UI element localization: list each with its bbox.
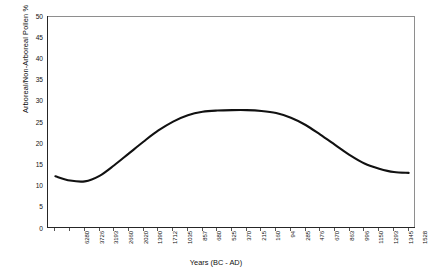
y-axis-tick-label: 25: [21, 119, 43, 126]
x-axis-tick-label: 160: [274, 231, 283, 255]
pollen-line-chart: Arboreal/Non-Arboreal Pollen % 504540353…: [0, 0, 432, 276]
x-axis-tick-label: 2660: [127, 231, 136, 255]
plot-area: [47, 16, 415, 228]
x-axis-tick-label: 1345: [407, 231, 416, 255]
x-axis-tick-label: 370: [245, 231, 254, 255]
y-axis-tick-label: 50: [21, 13, 43, 20]
x-axis-tick-label: 996: [363, 231, 372, 255]
data-series-line: [48, 16, 416, 228]
y-axis-tick-label: 0: [21, 225, 43, 232]
x-axis-tick-label: 1035: [186, 231, 195, 255]
x-axis-tick-label: 857: [201, 231, 210, 255]
y-axis-tick-label: 35: [21, 76, 43, 83]
y-axis-tick-label: 45: [21, 34, 43, 41]
x-axis-tick-label: 94: [289, 231, 298, 255]
y-axis-tick-label: 15: [21, 161, 43, 168]
x-axis-tick-label: 1528: [421, 231, 430, 255]
x-axis-tick-label: 3193: [112, 231, 121, 255]
y-axis-tick-label: 20: [21, 140, 43, 147]
x-axis-tick-label: 525: [230, 231, 239, 255]
x-axis-title: Years (BC - AD): [0, 258, 432, 267]
x-axis-tick-label: 670: [333, 231, 342, 255]
y-axis-tick-label: 30: [21, 97, 43, 104]
x-axis-tick-labels: 6280372631932660202013901712103585768052…: [47, 231, 415, 257]
x-axis-tick-label: 680: [215, 231, 224, 255]
x-axis-tick-label: 285: [304, 231, 313, 255]
x-axis-tick-label: 2020: [142, 231, 151, 255]
x-axis-tick-label: 476: [318, 231, 327, 255]
x-axis-tick-label: 863: [348, 231, 357, 255]
x-axis-tick-label: 1390: [156, 231, 165, 255]
x-axis-tick-label: 215: [260, 231, 269, 255]
x-axis-tick-label: 1293: [392, 231, 401, 255]
x-axis-tick-label: 1150: [377, 231, 386, 255]
y-axis-tick-label: 5: [21, 203, 43, 210]
x-axis-tick-label: 1712: [171, 231, 180, 255]
y-axis-tick-label: 40: [21, 55, 43, 62]
x-axis-tick-label: 6280: [83, 231, 92, 255]
x-axis-tick-label: 3726: [98, 231, 107, 255]
y-axis-tick-labels: 50454035302520151050: [21, 0, 43, 276]
y-axis-tick-label: 10: [21, 182, 43, 189]
